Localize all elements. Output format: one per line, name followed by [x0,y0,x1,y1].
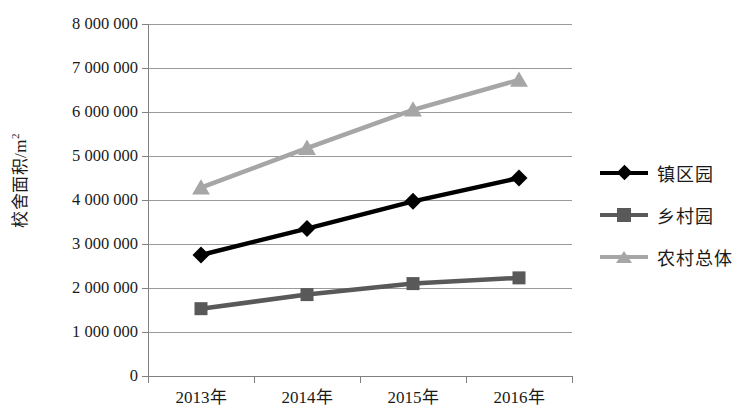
legend-swatch-diamond [600,164,648,182]
legend-item[interactable]: 镇区园 [600,152,740,194]
legend-item[interactable]: 乡村园 [600,194,740,236]
data-point-marker [195,302,208,315]
series-square [195,271,526,315]
data-point-marker [511,170,528,187]
legend-swatch-square [600,206,648,224]
legend-item[interactable]: 农村总体 [600,236,740,278]
legend-label: 乡村园 [657,202,714,228]
data-point-marker [299,220,316,237]
data-point-marker [405,193,422,210]
legend-marker-diamond-icon [617,165,633,181]
legend: 镇区园乡村园农村总体 [600,152,740,278]
line-chart: 校舍面积/m2 8 000 0007 000 0006 000 0005 000… [0,0,740,417]
data-point-marker [513,271,526,284]
legend-label: 镇区园 [657,160,714,186]
series-diamond [193,170,528,264]
series-triangle [192,71,528,194]
legend-marker-triangle-icon [616,251,632,263]
legend-marker-square-icon [617,208,631,222]
series-line [201,178,519,255]
series-line [201,80,519,188]
legend-swatch-triangle [600,248,648,266]
data-point-marker [193,247,210,264]
data-point-marker [301,288,314,301]
legend-label: 农村总体 [657,244,733,270]
data-point-marker [407,277,420,290]
series-line [201,278,519,309]
data-point-marker [510,71,528,86]
